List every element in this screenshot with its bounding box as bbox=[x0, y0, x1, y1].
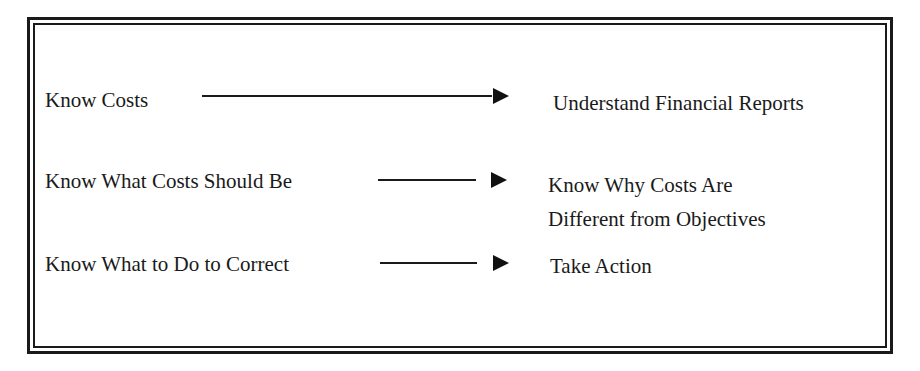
row-2-arrowhead-icon bbox=[491, 172, 507, 188]
row-2-right-label-line-1: Know Why Costs Are bbox=[548, 173, 733, 197]
row-1-right-label: Understand Financial Reports bbox=[553, 91, 804, 115]
row-1-left-label: Know Costs bbox=[45, 88, 148, 112]
row-2-connector-line bbox=[378, 179, 476, 181]
row-3-left-label: Know What to Do to Correct bbox=[45, 252, 289, 276]
row-3-arrowhead-icon bbox=[493, 255, 509, 271]
row-2-left-label: Know What Costs Should Be bbox=[45, 169, 292, 193]
row-3-right-label: Take Action bbox=[550, 254, 652, 278]
row-1-connector-line bbox=[202, 95, 492, 97]
row-3-connector-line bbox=[380, 262, 477, 264]
row-2-right-label-line-2: Different from Objectives bbox=[548, 207, 766, 231]
row-1-arrowhead-icon bbox=[493, 88, 509, 104]
